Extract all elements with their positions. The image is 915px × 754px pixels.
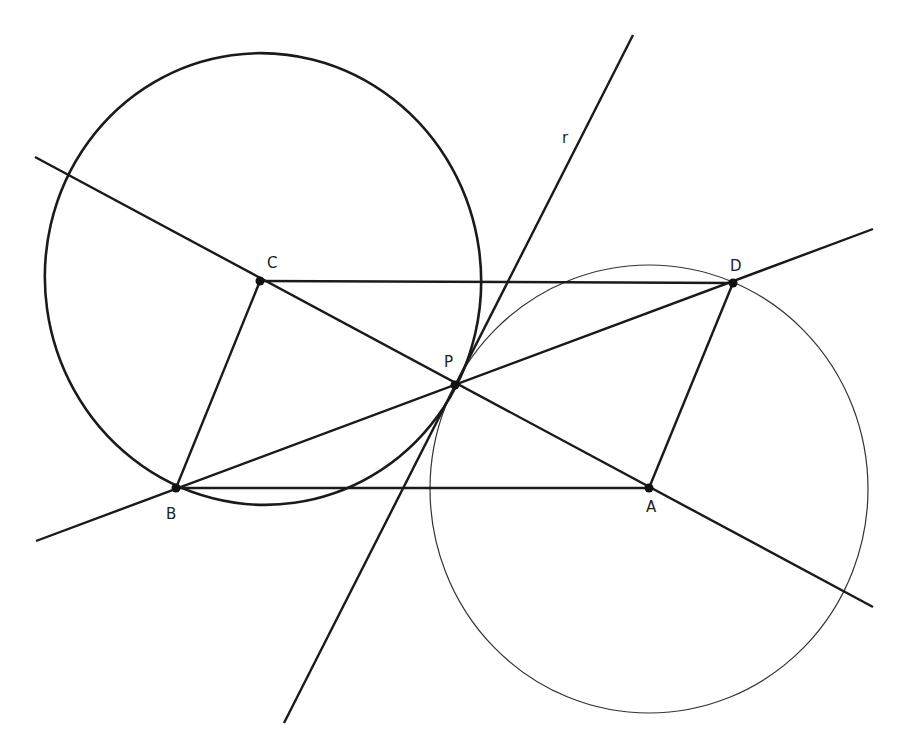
geometry-diagram: C D P B A r (0, 0, 915, 754)
label-D: D (730, 257, 742, 275)
label-P: P (444, 353, 453, 371)
point-A (645, 484, 654, 493)
point-B (172, 484, 181, 493)
point-D (729, 279, 738, 288)
line-r (284, 35, 633, 723)
segment-CD (260, 281, 733, 283)
segment-DA (649, 283, 733, 488)
label-r: r (562, 129, 569, 147)
point-C (256, 277, 265, 286)
point-P (451, 381, 460, 390)
label-B: B (166, 505, 176, 523)
label-C: C (267, 254, 277, 272)
label-A: A (646, 498, 657, 516)
segment-CB (176, 281, 260, 488)
